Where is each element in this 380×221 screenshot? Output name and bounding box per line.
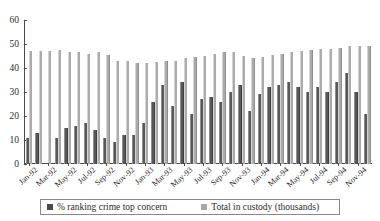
bar-in-custody <box>155 62 158 164</box>
legend-swatch-dark <box>47 204 53 210</box>
bar-group <box>63 20 73 164</box>
bar-in-custody <box>338 48 341 164</box>
x-tick-label: Nov-94 <box>344 166 368 189</box>
bar-in-custody <box>126 61 129 164</box>
legend-entry: % ranking crime top concern <box>47 202 167 212</box>
bar-in-custody <box>29 51 32 164</box>
bar-group <box>150 20 160 164</box>
bar-group <box>343 20 353 164</box>
y-tick-text: 10 <box>10 135 20 145</box>
bar-in-custody <box>106 55 109 164</box>
chart-legend: % ranking crime top concernTotal in cust… <box>40 199 340 215</box>
bar-in-custody <box>280 54 283 164</box>
bar-group <box>275 20 285 164</box>
bar-group <box>130 20 140 164</box>
bar-group <box>198 20 208 164</box>
bar-in-custody <box>97 52 100 164</box>
bar-group <box>72 20 82 164</box>
bar-in-custody <box>290 52 293 164</box>
bar-in-custody <box>135 63 138 164</box>
bar-chart-figure: 0102030405060 Jan-92Mar-92May-92Jul-92Se… <box>0 0 380 221</box>
y-tick-text: 30 <box>10 87 20 97</box>
bar-group <box>101 20 111 164</box>
bar-group <box>334 20 344 164</box>
y-tick-text: 40 <box>10 63 20 73</box>
x-tick-label: Nov-93 <box>228 166 252 189</box>
bar-in-custody <box>77 52 80 164</box>
bar-in-custody <box>203 56 206 164</box>
y-tick-text: 60 <box>10 15 20 25</box>
x-tick-label: Nov-92 <box>112 166 136 189</box>
bar-in-custody <box>174 61 177 164</box>
bar-in-custody <box>319 49 322 164</box>
bar-group <box>121 20 131 164</box>
bar-in-custody <box>222 52 225 164</box>
bar-in-custody <box>358 46 361 164</box>
legend-entry: Total in custody (thousands) <box>201 202 319 212</box>
bar-in-custody <box>309 50 312 164</box>
bar-in-custody <box>58 50 61 164</box>
bar-in-custody <box>116 61 119 164</box>
legend-label: % ranking crime top concern <box>57 202 167 212</box>
y-tick-text: 50 <box>10 39 20 49</box>
bar-in-custody <box>242 56 245 164</box>
bar-group <box>324 20 334 164</box>
bar-in-custody <box>193 57 196 164</box>
bar-in-custody <box>367 46 370 164</box>
bar-group <box>188 20 198 164</box>
bar-group <box>217 20 227 164</box>
bar-group <box>82 20 92 164</box>
bar-group <box>92 20 102 164</box>
bar-in-custody <box>68 52 71 164</box>
bar-in-custody <box>251 58 254 164</box>
bar-group <box>256 20 266 164</box>
bar-in-custody <box>261 57 264 164</box>
bar-group <box>43 20 53 164</box>
bar-group <box>295 20 305 164</box>
bar-group <box>159 20 169 164</box>
bar-group <box>227 20 237 164</box>
bar-in-custody <box>232 52 235 164</box>
bar-in-custody <box>145 63 148 164</box>
bar-group <box>353 20 363 164</box>
bar-group <box>53 20 63 164</box>
bar-in-custody <box>48 51 51 164</box>
bar-group <box>246 20 256 164</box>
legend-label: Total in custody (thousands) <box>211 202 319 212</box>
bar-in-custody <box>213 54 216 164</box>
bar-groups <box>24 20 372 164</box>
bar-group <box>363 20 373 164</box>
y-tick-text: 20 <box>10 111 20 121</box>
x-axis-labels: Jan-92Mar-92May-92Jul-92Sep-92Nov-92Jan-… <box>24 166 372 196</box>
bar-in-custody <box>348 46 351 164</box>
bar-group <box>285 20 295 164</box>
bar-group <box>140 20 150 164</box>
y-tick-text: 0 <box>14 159 19 169</box>
bar-group <box>111 20 121 164</box>
bar-group <box>304 20 314 164</box>
bar-group <box>34 20 44 164</box>
bar-in-custody <box>39 51 42 164</box>
bar-group <box>208 20 218 164</box>
bar-in-custody <box>329 49 332 164</box>
bar-in-custody <box>164 61 167 164</box>
bar-group <box>266 20 276 164</box>
legend-swatch-light <box>201 204 207 210</box>
bar-group <box>169 20 179 164</box>
bar-in-custody <box>87 54 90 164</box>
bar-in-custody <box>184 58 187 164</box>
bar-in-custody <box>300 51 303 164</box>
bar-group <box>237 20 247 164</box>
bar-in-custody <box>271 55 274 164</box>
bar-group <box>314 20 324 164</box>
bar-group <box>24 20 34 164</box>
bar-group <box>179 20 189 164</box>
